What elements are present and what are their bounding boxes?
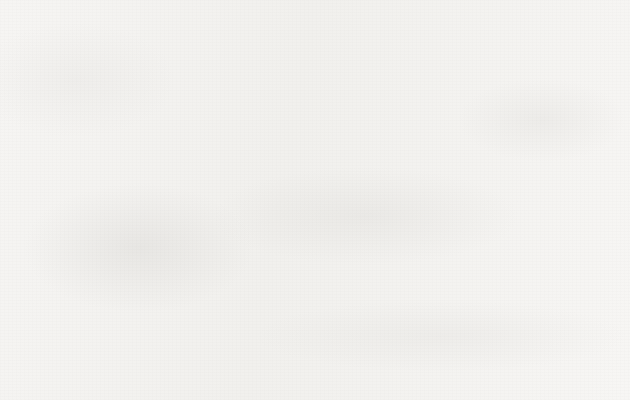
series-marker <box>296 110 314 128</box>
series-marker <box>224 120 242 138</box>
chart-axes <box>50 20 622 346</box>
series-marker <box>153 130 171 148</box>
legend-entry-label: 废水排放量(亿吨) <box>267 367 418 394</box>
series-marker <box>81 132 99 150</box>
series-marker <box>439 84 457 102</box>
series-marker <box>511 77 529 95</box>
line-chart <box>0 0 630 400</box>
series-marker <box>368 93 386 111</box>
open-diamond-marker-icon <box>213 371 259 391</box>
series-marker <box>583 70 601 88</box>
chart-legend: 废水排放量(亿吨) <box>0 367 630 394</box>
data-series-wastewater <box>81 70 601 150</box>
